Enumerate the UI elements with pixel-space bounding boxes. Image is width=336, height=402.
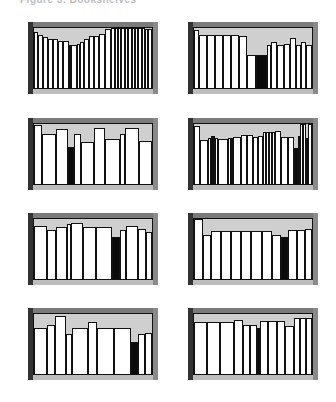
book <box>305 229 312 279</box>
book <box>148 29 152 88</box>
shelf-frame-edge <box>28 89 158 94</box>
book <box>297 230 305 279</box>
shelf-interior <box>33 218 153 280</box>
book <box>74 134 81 184</box>
book <box>281 137 288 184</box>
book <box>94 128 105 184</box>
shelf-interior <box>33 313 153 375</box>
book <box>218 139 228 184</box>
bookshelf-panel <box>28 22 158 94</box>
shelf-frame-edge <box>313 308 318 380</box>
book <box>223 35 231 88</box>
book <box>234 320 243 374</box>
book <box>251 231 261 279</box>
book <box>34 328 47 374</box>
book <box>199 35 207 88</box>
shelf-frame-edge <box>153 213 158 285</box>
book <box>200 140 208 184</box>
book <box>268 321 277 374</box>
bookshelf-panel <box>188 213 318 285</box>
book <box>125 128 139 184</box>
book <box>42 134 56 184</box>
shelf-frame-edge <box>313 22 318 94</box>
book <box>139 141 152 184</box>
book <box>194 322 207 374</box>
book <box>138 334 145 374</box>
shelf-interior <box>193 218 313 280</box>
book <box>272 235 281 279</box>
shelf-frame-edge <box>313 213 318 285</box>
shelf-frame-edge <box>153 118 158 190</box>
book <box>306 45 311 88</box>
book <box>145 333 152 374</box>
book <box>243 325 250 374</box>
book <box>138 229 146 279</box>
shelf-interior <box>193 27 313 89</box>
book <box>220 322 233 374</box>
book <box>34 125 42 184</box>
shelf-interior <box>193 123 313 185</box>
book <box>241 231 251 279</box>
book <box>211 231 221 279</box>
book <box>56 227 66 279</box>
book <box>207 322 220 374</box>
dark-book <box>281 237 288 279</box>
book <box>34 226 47 279</box>
figure-caption: Figure 3. Bookshelves <box>20 0 137 5</box>
book <box>83 227 96 279</box>
book <box>260 321 268 374</box>
bookshelf-panel <box>28 118 158 190</box>
book <box>288 137 295 184</box>
book <box>247 55 256 88</box>
book <box>88 322 98 374</box>
book <box>47 325 56 374</box>
book <box>72 328 88 374</box>
shelf-frame-edge <box>188 280 318 285</box>
shelf-frame-edge <box>188 89 318 94</box>
dark-book <box>112 237 120 279</box>
shelf-interior <box>33 27 153 89</box>
bookshelf-panel <box>188 118 318 190</box>
shelf-frame-edge <box>28 280 158 285</box>
book <box>56 129 69 184</box>
shelf-frame-edge <box>28 375 158 380</box>
dark-book <box>256 55 268 88</box>
book <box>81 142 94 184</box>
book <box>97 328 114 374</box>
bookshelf-panel <box>188 308 318 380</box>
dark-book <box>131 342 138 374</box>
shelf-frame-edge <box>28 185 158 190</box>
shelf-frame-edge <box>153 308 158 380</box>
book <box>146 232 152 279</box>
shelf-interior <box>33 123 153 185</box>
book <box>105 139 120 184</box>
bookshelf-panel <box>28 213 158 285</box>
book <box>96 227 112 279</box>
book <box>221 231 231 279</box>
book <box>308 124 312 184</box>
shelf-frame-edge <box>188 185 318 190</box>
shelf-frame-edge <box>153 22 158 94</box>
book <box>203 235 211 279</box>
book <box>233 137 241 184</box>
book <box>306 318 312 374</box>
book <box>277 321 285 374</box>
bookshelf-panel <box>188 22 318 94</box>
book <box>215 35 223 88</box>
book <box>250 325 257 374</box>
shelf-frame-edge <box>313 118 318 190</box>
book <box>231 231 241 279</box>
shelf-interior <box>193 313 313 375</box>
book <box>71 223 82 279</box>
book <box>126 226 138 279</box>
book <box>262 231 272 279</box>
bookshelf-panel <box>28 308 158 380</box>
shelf-frame-edge <box>188 375 318 380</box>
book <box>47 230 56 279</box>
book <box>231 35 239 88</box>
book <box>194 219 203 279</box>
book <box>55 316 66 374</box>
book <box>239 36 246 88</box>
book <box>288 230 297 279</box>
book <box>285 326 293 374</box>
